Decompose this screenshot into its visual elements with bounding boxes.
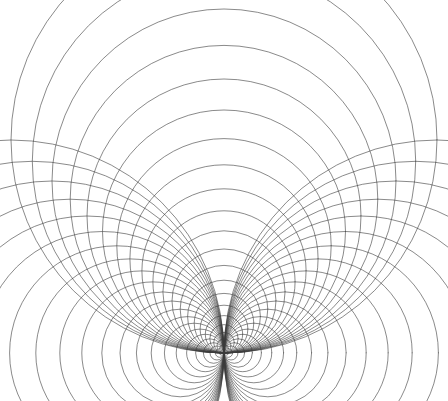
inversive-circle-grid-canvas [0,0,448,401]
figure-container: Inversive circle grid Two orthogonal fam… [0,0,448,401]
